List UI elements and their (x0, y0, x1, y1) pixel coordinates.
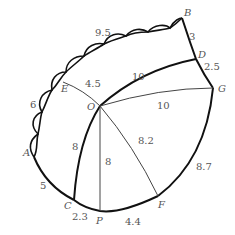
measure-OC: 8 (72, 141, 78, 152)
line-OC (74, 106, 100, 200)
measure-PF: 4.4 (125, 216, 141, 227)
measure-OG: 10 (157, 100, 170, 111)
measure-AC: 5 (40, 180, 46, 191)
point-label-P: P (95, 215, 103, 226)
scalloped-edge (31, 18, 182, 157)
measure-top-arc: 9.5 (95, 27, 111, 38)
point-label-D: D (197, 49, 206, 60)
point-label-B: B (183, 7, 191, 18)
point-label-F: F (157, 199, 166, 210)
measure-EO: 4.5 (85, 78, 101, 89)
point-label-A: A (22, 147, 30, 158)
edge-FC (74, 196, 158, 211)
measure-OD: 10 (132, 71, 145, 82)
measure-OP: 8 (105, 156, 111, 167)
measure-left-arc: 6 (30, 99, 36, 110)
point-label-C: C (64, 200, 72, 211)
measure-OF: 8.2 (138, 135, 154, 146)
line-OD (100, 59, 196, 106)
measure-CP: 2.3 (72, 211, 88, 222)
measure-BD: 3 (189, 31, 195, 42)
line-OF (100, 106, 158, 196)
point-label-O: O (87, 101, 95, 112)
edge-CA (34, 157, 74, 200)
point-label-E: E (60, 83, 69, 94)
point-label-G: G (218, 83, 226, 94)
measure-DG: 2.5 (204, 61, 220, 72)
pattern-diagram: B D G E O A C P F 9.5 3 2.5 10 10 4.5 6 … (0, 0, 235, 235)
measure-GF: 8.7 (196, 161, 212, 172)
